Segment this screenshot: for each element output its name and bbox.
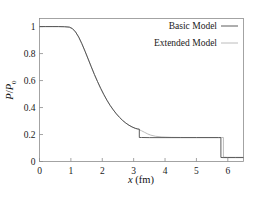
y-tick-label-0: 0 bbox=[31, 157, 36, 167]
x-tick-label-4: 4 bbox=[163, 166, 168, 176]
x-tick-label-0: 0 bbox=[37, 166, 42, 176]
chart-figure: 0123456 00.20.40.60.81 x (fm) P/P0 Basic… bbox=[0, 0, 255, 197]
y-tick-label-3: 0.6 bbox=[24, 76, 36, 86]
line-chart: 0123456 00.20.40.60.81 x (fm) P/P0 Basic… bbox=[0, 0, 255, 197]
x-axis-title: x (fm) bbox=[127, 174, 154, 186]
y-tick-label-2: 0.4 bbox=[24, 103, 36, 113]
y-tick-label-4: 0.8 bbox=[24, 49, 36, 59]
y-tick-label-1: 0.2 bbox=[24, 130, 36, 140]
x-tick-label-5: 5 bbox=[194, 166, 199, 176]
y-tick-label-5: 1 bbox=[31, 22, 36, 32]
x-tick-label-1: 1 bbox=[69, 166, 74, 176]
legend-label-1: Extended Model bbox=[154, 38, 217, 48]
legend-label-0: Basic Model bbox=[169, 21, 218, 31]
x-tick-label-6: 6 bbox=[225, 166, 230, 176]
x-tick-label-2: 2 bbox=[100, 166, 105, 176]
